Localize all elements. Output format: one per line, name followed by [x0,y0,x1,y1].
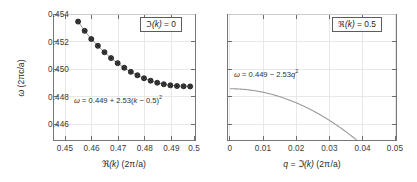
data-point [102,50,107,55]
data-point [155,80,160,85]
data-point [135,73,140,78]
data-point [115,61,120,66]
left-xtick-label-4: 0.49 [163,144,179,153]
left-ytick-label-2: 0.450 [48,65,69,74]
left-xtick-label-5: 0.5 [188,144,200,153]
right-plot-canvas [207,0,417,182]
left-xtick-label-3: 0.48 [137,144,153,153]
right-xtick-label-3: 0.03 [321,144,337,153]
right-legend-box: ℜ(k) = 0.5 [332,17,382,32]
left-y-axis-title: ω (2πc/a) [16,60,26,97]
left-x-axis-title: ℜ(k) (2π /a) [102,159,146,169]
data-point [122,65,127,70]
right-xtick-label-2: 0.02 [288,144,304,153]
left-xtick-label-0: 0.45 [57,144,73,153]
left-legend-box: ℑ(k) = 0 [140,17,182,32]
left-ytick-label-3: 0.452 [48,37,69,46]
data-point [109,56,114,61]
data-point [161,82,166,87]
left-xtick-label-1: 0.46 [83,144,99,153]
data-point [82,28,87,33]
left-ytick-label-4: 0.454 [48,10,69,19]
data-point [174,84,179,89]
left-plot-frame [54,15,196,141]
right-equation-annotation: ω = 0.449 − 2.53q2 [234,70,298,79]
data-point [142,76,147,81]
panel-left: 0.446 0.448 0.450 0.452 0.454 0.45 0.46 … [0,0,207,182]
data-point [188,84,193,89]
data-point [128,69,133,74]
figure-container: 0.446 0.448 0.450 0.452 0.454 0.45 0.46 … [0,0,417,182]
data-point [89,37,94,42]
data-point [168,83,173,88]
right-xtick-label-4: 0.04 [354,144,370,153]
panel-right: 0 0.01 0.02 0.03 0.04 0.05 q = ℑ(k) (2π … [207,0,417,182]
left-equation-annotation: ω = 0.449 + 2.53(k − 0.5)2 [74,96,162,105]
right-xtick-label-0: 0 [227,144,232,153]
left-ytick-label-0: 0.446 [48,120,69,129]
right-x-axis-title: q = ℑ(k) (2π /a) [283,159,340,169]
data-point [95,43,100,48]
data-point [181,84,186,89]
data-point [76,19,81,24]
left-ytick-label-1: 0.448 [48,92,69,101]
left-xtick-label-2: 0.47 [110,144,126,153]
right-xtick-label-5: 0.05 [387,144,403,153]
right-xtick-label-1: 0.01 [255,144,271,153]
data-point [148,78,153,83]
